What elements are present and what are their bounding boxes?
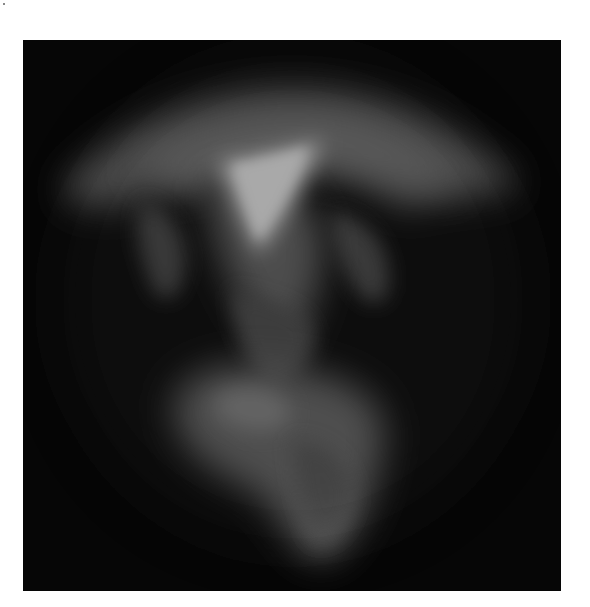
corner-speck	[3, 3, 5, 5]
abstract-glow-image	[23, 40, 561, 591]
photo-frame: Abstract glowing translucent form on bla…	[23, 40, 561, 591]
